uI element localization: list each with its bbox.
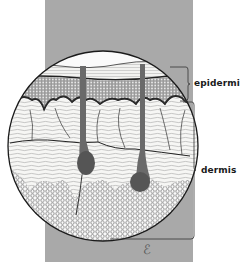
dermis-label: dermis [201, 165, 236, 175]
skin-cross-section-illustration [0, 0, 240, 262]
artist-signature: ℰ [143, 242, 151, 257]
epidermis-label: epidermis [194, 78, 240, 88]
magnified-circle-content [0, 40, 240, 260]
